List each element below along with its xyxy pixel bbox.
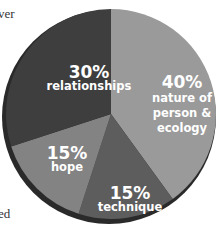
slice-label-hope: 15% hope [42,145,92,174]
slice-label-technique: 15% technique [90,185,170,214]
nature-percent: 40% [148,74,216,91]
technique-name: technique [90,202,170,214]
relationships-name: relationships [37,81,141,93]
nature-name-line2: person & [148,106,216,121]
hope-name: hope [42,162,92,174]
nature-name-line1: nature of [148,91,216,106]
nature-name-line3: ecology [148,121,216,136]
slice-label-nature: 40% nature of person & ecology [148,74,216,136]
slice-label-relationships: 30% relationships [37,64,141,93]
